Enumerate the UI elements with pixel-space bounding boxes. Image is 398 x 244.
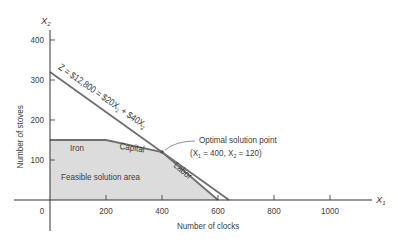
origin-label: 0 [40, 206, 45, 216]
y-axis-title: Number of stoves [15, 103, 25, 171]
optimal-point-label: Optimal solution point [199, 135, 277, 145]
y-tick-label: 400 [19, 35, 45, 45]
x-tick-label: 600 [211, 206, 224, 216]
iron-label: Iron [70, 143, 84, 153]
x-tick-label: 400 [155, 206, 168, 216]
y-tick-label: 300 [19, 75, 45, 85]
feasible-region-label: Feasible solution area [61, 172, 140, 182]
x-tick-label: 800 [267, 206, 280, 216]
x-axis-symbol: X1 [376, 195, 386, 206]
optimal-point-values: (X1 = 400, X2 = 120) [190, 148, 262, 159]
linear-programming-chart: X2 X1 400 300 200 100 0 200 400 600 800 … [0, 0, 398, 244]
x-axis-title: Number of clocks [177, 221, 239, 231]
x-tick-label: 200 [99, 206, 112, 216]
y-axis-symbol: X2 [41, 16, 51, 27]
optimal-point [160, 150, 164, 154]
x-tick-label: 1000 [321, 206, 339, 216]
